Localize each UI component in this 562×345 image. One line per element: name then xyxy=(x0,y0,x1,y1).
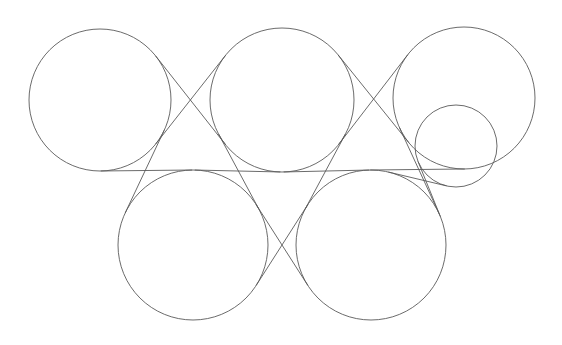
tangent-line xyxy=(338,55,409,143)
circle-top-middle xyxy=(210,28,354,172)
tangent-line xyxy=(388,172,446,186)
circle-top-left xyxy=(29,29,171,171)
circle-chain-diagram xyxy=(0,0,562,345)
circle-small-right xyxy=(415,105,497,187)
tangent-line xyxy=(370,169,465,170)
circle-top-right xyxy=(393,27,535,169)
tangent-line xyxy=(125,130,164,213)
circles-group xyxy=(29,27,535,320)
tangent-line xyxy=(101,170,192,171)
circle-bottom-left xyxy=(118,170,268,320)
figure-canvas xyxy=(0,0,562,345)
circle-bottom-right xyxy=(296,170,446,320)
tangent-lines-group xyxy=(101,55,465,286)
tangent-line xyxy=(400,128,440,214)
